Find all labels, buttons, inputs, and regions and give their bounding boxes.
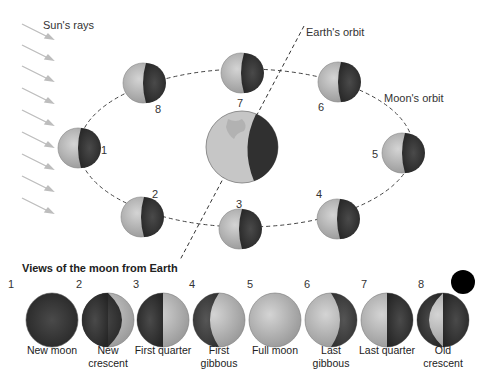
phase-number: 8: [418, 278, 424, 290]
phase-view-5: [249, 293, 301, 347]
phase-view-6: [305, 293, 357, 347]
ray-arrow-icon: [22, 176, 53, 191]
phase-view-4: [193, 293, 245, 347]
earths-orbit-label: Earth's orbit: [306, 26, 364, 38]
phase-number: 1: [8, 278, 14, 290]
orbit-moon-7: [221, 53, 264, 93]
phase-name: Old crescent: [421, 344, 465, 370]
orbit-moon-8: [123, 63, 166, 103]
phase-name: Last gibbous: [309, 344, 353, 370]
phase-name: Last quarter: [349, 344, 425, 357]
orbit-moon-6: [318, 62, 361, 102]
phase-view-2: [82, 293, 134, 347]
ray-arrow-icon: [22, 66, 53, 81]
phase-name: First gibbous: [197, 344, 241, 370]
phase-number: 6: [304, 278, 310, 290]
orbit-number-2: 2: [152, 188, 158, 200]
phase-number: 5: [247, 278, 253, 290]
orbit-moon-1: [58, 128, 101, 168]
phase-name: First quarter: [125, 344, 201, 357]
phase-number: 7: [361, 278, 367, 290]
orbit-number-8: 8: [155, 103, 161, 115]
phase-view-7: [361, 293, 413, 347]
orbit-number-6: 6: [318, 101, 324, 113]
orbit-number-4: 4: [316, 188, 322, 200]
ray-arrow-icon: [22, 88, 53, 103]
phase-number: 4: [189, 278, 195, 290]
phase-number: 3: [133, 278, 139, 290]
phase-name: Full moon: [237, 344, 313, 357]
ray-arrow-icon: [22, 154, 53, 169]
orbit-moon-5: [382, 133, 425, 173]
views-section-title: Views of the moon from Earth: [22, 262, 178, 274]
orbit-number-5: 5: [372, 148, 378, 160]
ray-arrow-icon: [22, 198, 53, 213]
ray-arrow-icon: [22, 45, 53, 60]
orbit-number-7: 7: [237, 97, 243, 109]
moons-orbit-label: Moon's orbit: [384, 92, 444, 104]
orbit-number-3: 3: [236, 198, 242, 210]
ray-arrow-icon: [22, 110, 53, 125]
phase-name: New moon: [14, 344, 90, 357]
orbit-moon-4: [317, 199, 360, 239]
orbit-number-1: 1: [101, 144, 107, 156]
phase-number: 2: [76, 278, 82, 290]
ray-arrow-icon: [22, 132, 53, 147]
suns-rays-label: Sun's rays: [43, 19, 94, 31]
sun-rays: [22, 24, 53, 213]
earth: [206, 111, 278, 183]
phase-view-8: [417, 293, 469, 347]
black-dot-marker: [451, 270, 475, 294]
phase-view-1: [26, 293, 78, 347]
orbit-moon-3: [219, 209, 262, 249]
moon-phases-diagram: [0, 0, 486, 383]
phase-view-3: [137, 293, 189, 347]
orbit-moon-2: [121, 197, 164, 237]
